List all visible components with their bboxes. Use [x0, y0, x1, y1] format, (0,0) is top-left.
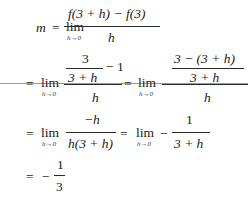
fraction-denominator: h — [204, 91, 211, 105]
limit-operator: lim — [138, 76, 156, 90]
fraction-denominator: h(3 + h) — [68, 137, 113, 151]
slope-variable: m — [36, 21, 46, 35]
limit-operator: lim — [41, 126, 59, 140]
limit-operator: lim — [136, 126, 154, 140]
fraction-bar — [66, 132, 116, 133]
limit-subscript: h→0 — [139, 91, 153, 98]
fraction-bar — [54, 175, 65, 176]
inner-denominator: 3 + h — [68, 71, 97, 85]
equals-sign: = — [124, 77, 132, 91]
main-fraction-bar — [162, 84, 248, 85]
fraction-denominator: 3 + h — [174, 137, 203, 151]
fraction-bar — [172, 132, 210, 133]
limit-subscript: h→0 — [137, 141, 151, 148]
equals-sign: = — [26, 127, 34, 141]
fraction-numerator: 1 — [57, 158, 64, 172]
equals-sign: = — [52, 21, 60, 35]
equals-sign: = — [120, 127, 128, 141]
limit-subscript: h→0 — [42, 91, 56, 98]
main-fraction-bar — [64, 84, 122, 85]
fraction-numerator: 1 — [186, 113, 193, 127]
limit-operator: lim — [41, 76, 59, 90]
inner-denominator: 3 + h — [190, 71, 219, 85]
negative-sign: − — [160, 127, 168, 141]
negative-sign: − — [42, 170, 50, 184]
limit-subscript: h→0 — [42, 141, 56, 148]
fraction-denominator: h — [92, 91, 99, 105]
equals-sign: = — [26, 170, 34, 184]
inner-fraction-bar — [66, 68, 103, 69]
fraction-numerator: −h — [84, 113, 100, 127]
equals-sign: = — [26, 77, 34, 91]
inner-numerator: 3 — [82, 52, 89, 66]
limit-subscript: h→0 — [67, 35, 81, 42]
inner-numerator: 3 − (3 + h) — [174, 52, 235, 66]
inner-fraction-bar — [172, 68, 244, 69]
fraction-denominator: 3 — [56, 180, 63, 194]
fraction-denominator: h — [108, 31, 115, 45]
fraction-bar — [64, 26, 160, 27]
minus-one: − 1 — [106, 60, 124, 74]
